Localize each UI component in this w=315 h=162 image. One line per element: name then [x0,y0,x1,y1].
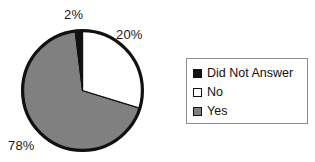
pie-label-did-not-answer: 2% [64,8,83,22]
legend-swatch-icon [193,107,202,116]
pie-chart-svg [21,29,144,152]
chart-legend: Did Not Answer No Yes [186,58,308,124]
legend-item-no[interactable]: No [193,83,307,101]
legend-swatch-icon [193,88,202,97]
legend-item-did-not-answer[interactable]: Did Not Answer [193,64,307,82]
legend-item-yes[interactable]: Yes [193,102,307,120]
pie-label-yes: 78% [8,139,35,153]
pie-chart [21,29,144,152]
pie-label-no: 20% [116,28,143,42]
pie-chart-figure: 2% 20% 78% Did Not Answer No Yes [0,0,315,162]
legend-swatch-icon [193,69,202,78]
legend-label: Yes [207,105,227,118]
legend-label: Did Not Answer [207,67,293,80]
legend-label: No [207,86,223,99]
